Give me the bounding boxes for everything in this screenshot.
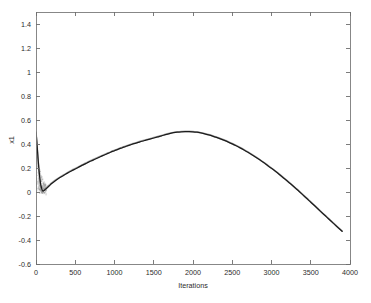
y-tick-label: 0.6 <box>21 116 31 125</box>
y-tick-label: 0.2 <box>21 164 31 173</box>
x-tick-label: 1500 <box>146 268 162 277</box>
y-tick-label: 1 <box>27 68 31 77</box>
y-tick-label: -0.6 <box>19 260 31 269</box>
x-tick-label: 0 <box>34 268 38 277</box>
y-tick-label: -0.4 <box>19 236 31 245</box>
y-tick-label: -0.2 <box>19 212 31 221</box>
x-tick-label: 3500 <box>303 268 319 277</box>
chart-background <box>0 0 371 303</box>
y-axis-title: x1 <box>7 136 16 144</box>
line-chart: 05001000150020002500300035004000 -0.6-0.… <box>0 0 371 303</box>
x-tick-label: 2500 <box>224 268 240 277</box>
figure-canvas: 05001000150020002500300035004000 -0.6-0.… <box>0 0 371 303</box>
y-tick-label: 1.2 <box>21 44 31 53</box>
y-tick-label: 0 <box>27 188 31 197</box>
x-tick-label: 3000 <box>264 268 280 277</box>
y-tick-label: 1.4 <box>21 20 31 29</box>
x-axis-title: Iterations <box>178 281 208 290</box>
x-tick-label: 1000 <box>107 268 123 277</box>
x-tick-label: 500 <box>69 268 81 277</box>
x-tick-label: 2000 <box>185 268 201 277</box>
y-tick-label: 0.8 <box>21 92 31 101</box>
y-tick-label: 0.4 <box>21 140 31 149</box>
x-tick-label: 4000 <box>342 268 358 277</box>
